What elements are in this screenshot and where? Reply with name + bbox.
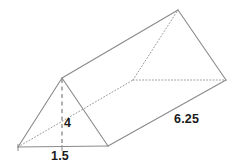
edge-front-bottom	[18, 146, 108, 147]
prism-figure: 4 1.5 6.25	[0, 0, 239, 167]
edge-top-ridge	[62, 10, 178, 78]
edge-lower-right-length	[108, 80, 226, 146]
height-dimension-label: 4	[64, 117, 71, 130]
length-dimension-label: 6.25	[174, 113, 199, 126]
base-dimension-label: 1.5	[51, 150, 69, 163]
edge-back-right-slant	[178, 10, 226, 80]
edge-front-left-slant	[18, 78, 62, 147]
prism-drawing	[0, 0, 239, 167]
hidden-edge-base-left-to-back-bottom	[18, 80, 133, 147]
hidden-edge-back-bottom-to-back-apex	[133, 10, 178, 80]
edge-front-right-slant	[62, 78, 108, 146]
hidden-edges-group	[18, 10, 226, 147]
visible-edges-group	[18, 10, 226, 147]
